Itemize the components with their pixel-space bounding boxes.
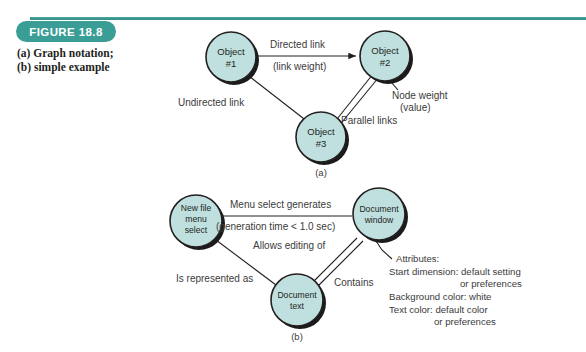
node-object-2[interactable]: Object #2 [360, 31, 413, 84]
diagram-a: Object #1 Object #2 Object #3 Directed l… [178, 31, 448, 178]
part-label-b: (b) [291, 331, 303, 342]
label-link-weight: (link weight) [273, 61, 326, 72]
label-is-represented-as: Is represented as [176, 273, 253, 284]
node-object-1-line2: #1 [226, 58, 237, 69]
node-object-1-line1: Object [217, 46, 245, 57]
label-contains: Contains [334, 277, 373, 288]
node-object-3-line1: Object [307, 126, 335, 137]
attributes-line-1: Start dimension: default setting [389, 266, 521, 277]
node-document-text-line1: Document [277, 290, 317, 300]
label-allows-editing-of: Allows editing of [253, 240, 325, 251]
attributes-heading: Attributes: [396, 253, 439, 264]
label-directed-link: Directed link [270, 39, 326, 50]
node-body [360, 31, 410, 81]
node-new-file-line1: New file [181, 203, 212, 213]
node-object-1[interactable]: Object #1 [206, 32, 259, 85]
node-document-window-line2: window [364, 215, 394, 225]
figure-diagram: Object #1 Object #2 Object #3 Directed l… [0, 0, 586, 352]
attributes-line-3: Background color: white [389, 291, 491, 302]
node-body [353, 188, 405, 240]
diagram-b: New file menu select Document window Doc… [170, 188, 522, 342]
node-object-2-line1: Object [371, 45, 399, 56]
node-document-text[interactable]: Document text [271, 274, 326, 329]
label-node-weight-value: (value) [400, 102, 431, 113]
attributes-line-2: or preferences [460, 278, 522, 289]
node-object-3-line2: #3 [316, 138, 327, 149]
label-node-weight: Node weight [392, 90, 448, 101]
label-menu-select-generates: Menu select generates [230, 199, 331, 210]
figure-page: FIGURE 18.8 (a) Graph notation; (b) simp… [0, 0, 586, 352]
node-object-2-line2: #2 [380, 57, 391, 68]
label-parallel-links: Parallel links [341, 115, 397, 126]
node-document-window[interactable]: Document window [353, 188, 408, 243]
node-new-file-line3: select [185, 225, 208, 235]
attributes-line-5: or preferences [434, 316, 496, 327]
part-label-a: (a) [315, 167, 327, 178]
node-body [296, 112, 346, 162]
node-body [271, 274, 323, 326]
label-undirected-link: Undirected link [178, 97, 245, 108]
node-new-file-line2: menu [185, 214, 207, 224]
label-generation-time: (generation time < 1.0 sec) [216, 221, 335, 232]
node-document-window-line1: Document [359, 204, 399, 214]
attributes-line-4: Text color: default color [389, 304, 488, 315]
edge-undirected-link [245, 73, 308, 122]
node-body [206, 32, 256, 82]
node-document-text-line2: text [290, 301, 304, 311]
